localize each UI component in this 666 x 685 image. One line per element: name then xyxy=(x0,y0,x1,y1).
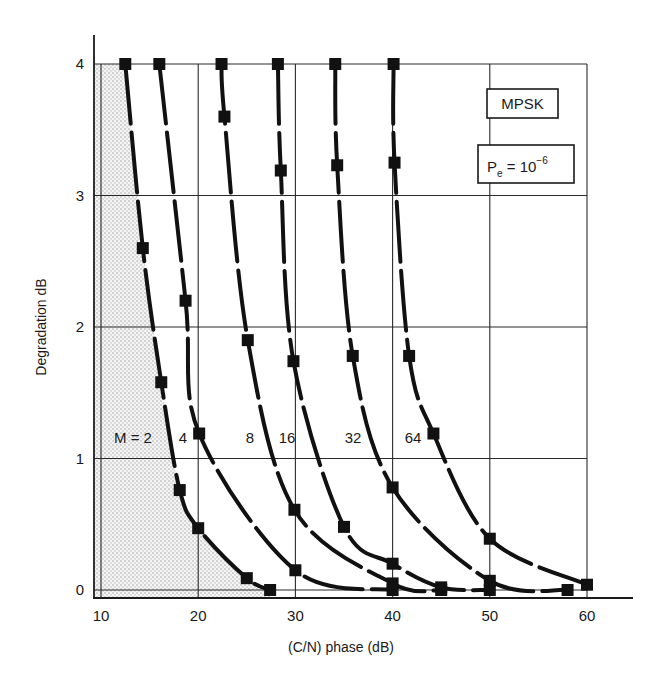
data-marker xyxy=(153,58,165,70)
data-marker xyxy=(174,484,186,496)
data-marker xyxy=(329,58,341,70)
data-marker xyxy=(427,428,439,440)
x-tick-label: 50 xyxy=(481,607,498,624)
degradation-chart: 10203040506001234 M = 248163264 (C/N) ph… xyxy=(0,0,666,685)
data-marker xyxy=(289,564,301,576)
data-marker xyxy=(388,58,400,70)
svg-text:MPSK: MPSK xyxy=(501,95,544,112)
data-marker xyxy=(387,481,399,493)
shaded-region xyxy=(95,64,270,597)
data-marker xyxy=(484,575,496,587)
data-marker xyxy=(288,504,300,516)
y-axis-label: Degradation dB xyxy=(33,278,49,375)
data-marker xyxy=(193,428,205,440)
data-marker xyxy=(581,579,593,591)
y-tick-label: 0 xyxy=(76,581,84,598)
curve-label: M = 2 xyxy=(114,429,152,446)
data-marker xyxy=(275,165,287,177)
y-tick-label: 4 xyxy=(76,55,84,72)
legend-error-probability: Pe = 10−6 xyxy=(478,145,574,183)
data-marker xyxy=(331,159,343,171)
data-marker xyxy=(435,581,447,593)
data-marker xyxy=(180,295,192,307)
x-tick-label: 20 xyxy=(190,607,207,624)
data-marker xyxy=(403,350,415,362)
y-tick-label: 2 xyxy=(76,318,84,335)
x-tick-label: 10 xyxy=(93,607,110,624)
data-marker xyxy=(389,157,401,169)
data-marker xyxy=(272,58,284,70)
data-marker xyxy=(264,584,276,596)
curve-label: 64 xyxy=(405,429,422,446)
data-marker xyxy=(137,242,149,254)
data-marker xyxy=(155,376,167,388)
curve-label: 32 xyxy=(345,429,362,446)
data-marker xyxy=(192,522,204,534)
x-tick-label: 40 xyxy=(384,607,401,624)
data-marker xyxy=(218,111,230,123)
x-axis-label: (C/N) phase (dB) xyxy=(288,639,394,655)
y-tick-label: 1 xyxy=(76,450,84,467)
data-marker xyxy=(287,355,299,367)
curve-label: 4 xyxy=(179,429,187,446)
shaded-area xyxy=(95,64,270,597)
curve-m32 xyxy=(335,64,567,591)
curves xyxy=(125,64,587,591)
x-tick-label: 60 xyxy=(579,607,596,624)
curve-label: 8 xyxy=(246,429,254,446)
data-marker xyxy=(242,334,254,346)
data-marker xyxy=(216,58,228,70)
data-marker xyxy=(119,58,131,70)
data-marker xyxy=(562,584,574,596)
x-tick-label: 30 xyxy=(287,607,304,624)
curve-label: 16 xyxy=(279,429,296,446)
data-marker xyxy=(387,577,399,589)
data-marker xyxy=(338,521,350,533)
y-tick-label: 3 xyxy=(76,187,84,204)
data-marker xyxy=(387,558,399,570)
data-marker xyxy=(484,533,496,545)
legend-mpsk: MPSK xyxy=(487,89,558,118)
data-marker xyxy=(347,350,359,362)
data-marker xyxy=(241,572,253,584)
